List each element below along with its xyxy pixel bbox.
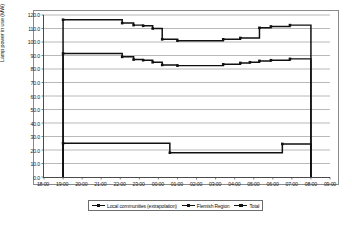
data-series — [62, 142, 311, 177]
series-marker — [258, 27, 261, 30]
legend-item-label: Flemish Region — [197, 203, 230, 209]
legend-item: Total — [234, 203, 259, 209]
series-marker — [151, 61, 154, 64]
series-marker — [289, 58, 292, 61]
legend-item-label: Total — [249, 203, 259, 209]
series-marker — [62, 18, 65, 21]
series-marker — [176, 39, 179, 42]
series-marker — [151, 27, 154, 30]
series-marker — [270, 59, 273, 62]
series-marker — [239, 62, 242, 65]
legend-key-icon — [234, 203, 247, 209]
series-marker — [281, 143, 284, 146]
series-marker — [142, 59, 145, 62]
y-axis-tick-label: 100.0 — [14, 39, 40, 45]
series-marker — [222, 38, 225, 41]
legend-item: Local communities (extrapolation) — [92, 203, 177, 209]
y-axis-tick-label: 40.0 — [14, 121, 40, 127]
series-marker — [176, 64, 179, 67]
legend-key-icon — [182, 203, 195, 209]
chart-figure: Lamp power in use (MW) 0.010.020.030.040… — [0, 0, 352, 226]
data-series — [62, 52, 311, 177]
y-axis-tick-label: 120.0 — [14, 12, 40, 18]
y-axis-tick-label: 90.0 — [14, 53, 40, 59]
y-axis-tick-label: 20.0 — [14, 148, 40, 154]
series-marker — [222, 63, 225, 66]
series-marker — [249, 61, 252, 64]
series-line — [63, 143, 311, 177]
series-marker — [270, 25, 273, 28]
y-axis-tick-label: 80.0 — [14, 66, 40, 72]
series-marker — [132, 24, 135, 27]
y-axis-tick-label: 10.0 — [14, 161, 40, 167]
data-series-layer — [44, 15, 330, 177]
series-marker — [161, 64, 164, 67]
y-axis-tick-label: 110.0 — [14, 26, 40, 32]
series-marker — [121, 56, 124, 59]
plot-area — [43, 15, 330, 178]
series-marker — [258, 60, 261, 63]
chart-legend: Local communities (extrapolation)Flemish… — [88, 200, 263, 211]
legend-key-icon — [92, 203, 105, 209]
series-line — [63, 53, 311, 177]
legend-item: Flemish Region — [182, 203, 230, 209]
series-marker — [169, 151, 172, 154]
series-marker — [142, 25, 145, 28]
y-axis-tick-label: 60.0 — [14, 94, 40, 100]
y-axis-tick-label: 70.0 — [14, 80, 40, 86]
series-marker — [239, 37, 242, 40]
y-axis-label: Lamp power in use (MW) — [0, 0, 5, 62]
series-marker — [161, 38, 164, 41]
x-axis-tick-label: 09:00 — [319, 181, 341, 187]
series-marker — [121, 22, 124, 25]
series-marker — [289, 24, 292, 27]
legend-item-label: Local communities (extrapolation) — [107, 203, 177, 209]
series-marker — [132, 58, 135, 61]
y-axis-tick-label: 30.0 — [14, 134, 40, 140]
y-axis-tick-label: 50.0 — [14, 107, 40, 113]
